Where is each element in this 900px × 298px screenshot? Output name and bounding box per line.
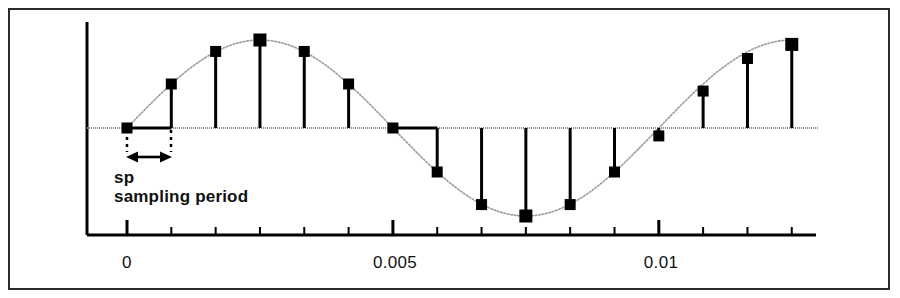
sample-marker-2 [210,46,221,57]
sp-arrowhead-right [160,152,172,163]
sample-marker-5 [343,79,354,90]
sample-marker-15 [785,38,798,51]
sample-marker-8 [476,199,487,210]
sample-marker-6 [387,123,398,134]
sample-marker-10 [565,199,576,210]
sampled-sine-stem-plot [0,0,900,298]
sample-marker-4 [299,46,310,57]
sample-marker-12 [653,130,664,141]
sp-label: sp [114,168,134,188]
sample-marker-9 [519,210,532,223]
x-axis-ticks [127,220,792,235]
sampling-period-annotation [126,130,172,163]
sample-marker-14 [742,53,753,64]
sample-marker-1 [166,79,177,90]
x-tick-label-2: 0.01 [644,253,678,273]
x-tick-label-0: 0 [122,253,132,273]
sample-marker-11 [609,167,620,178]
figure-container: 0 0.005 0.01 sp sampling period [0,0,900,298]
sampling-period-label: sampling period [114,187,248,207]
sample-marker-13 [698,86,709,97]
sample-marker-3 [253,34,266,47]
sp-arrowhead-left [126,152,138,163]
x-tick-label-1: 0.005 [373,253,417,273]
sample-marker-7 [432,167,443,178]
